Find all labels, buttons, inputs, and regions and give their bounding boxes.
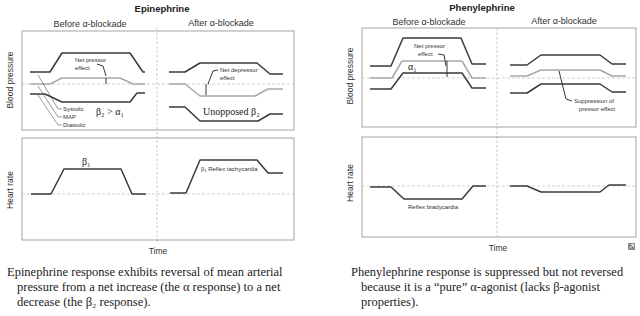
phe-caption-line-2: because it is a “pure” α-agonist (lacks … <box>351 280 640 295</box>
phe-reflex-brady-label: Reflex bradycardia <box>408 204 459 210</box>
epi-legend-map: MAP <box>63 114 76 120</box>
phe-suppression-text-1: Suppression of <box>574 98 614 104</box>
phe-after-systolic-line <box>510 55 626 65</box>
phenylephrine-panel: Phenylephrine Before α-blockade After α-… <box>345 2 636 253</box>
phe-before-label: Before α-blockade <box>392 17 465 27</box>
epi-net-pressor-text-2: effect <box>75 65 90 71</box>
phe-time-label: Time <box>489 243 508 253</box>
phe-suppression-arrow <box>559 71 572 101</box>
phe-bp-frame <box>362 28 636 127</box>
phe-hr-axis-label: Heart rate <box>345 164 355 202</box>
epi-reflex-tachy-label: β₁ Reflex tachycardia <box>201 166 258 172</box>
epi-before-map-line <box>30 78 145 84</box>
phe-alpha1-label: α₁ <box>408 61 417 72</box>
epi-unopposed-beta2: Unopposed β₂ <box>203 106 260 117</box>
epi-before-label: Before α-blockade <box>53 19 126 29</box>
epi-after-hr-line <box>170 160 283 193</box>
phe-after-map-line <box>510 70 626 76</box>
phe-after-label: After α-blockade <box>531 16 597 26</box>
epi-legend-leader-map <box>38 86 62 117</box>
phe-before-map-line <box>370 61 486 78</box>
phe-net-pressor-text-2: effect <box>418 51 433 57</box>
epi-after-map-line <box>169 84 283 96</box>
epi-net-depressor-arrow <box>208 70 218 84</box>
epi-hr-axis-label: Heart rate <box>5 171 15 209</box>
epi-before-hr-line <box>31 169 146 194</box>
phenylephrine-title: Phenylephrine <box>449 2 514 13</box>
phe-net-pressor-arrow <box>438 54 446 66</box>
epi-after-label: After α-blockade <box>188 18 254 28</box>
epi-legend-systolic: Systolic <box>63 106 84 112</box>
epi-hr-frame <box>22 138 294 240</box>
phe-bp-axis-label: Blood pressure <box>345 47 355 104</box>
phe-net-pressor-text-1: Net pressor <box>414 43 445 49</box>
epi-caption-line-3: decrease (the β₂ response). <box>7 295 317 310</box>
epinephrine-title: Epinephrine <box>135 3 190 14</box>
epi-beta2-gt-alpha1: β₂ > α₁ <box>96 106 124 117</box>
phe-caption-line-1: Phenylephrine response is suppressed but… <box>351 265 640 280</box>
phe-suppression-text-2: pressor effect <box>579 106 616 112</box>
phe-before-hr-line <box>370 186 486 199</box>
epi-caption-line-1: Epinephrine response exhibits reversal o… <box>7 265 317 280</box>
phe-caption-line-3: properties). <box>351 295 640 310</box>
phe-before-diastolic-line <box>370 73 486 89</box>
phe-hr-frame <box>362 137 636 237</box>
epi-net-pressor-arrow <box>97 64 106 76</box>
epinephrine-panel: Epinephrine Before α-blockade After α-bl… <box>5 3 294 256</box>
epi-legend-diastolic: Diastolic <box>63 122 86 128</box>
expand-icon[interactable] <box>628 243 635 250</box>
epi-bp-axis-label: Blood pressure <box>5 51 15 108</box>
epi-net-depressor-text-1: Net depressor <box>220 67 258 73</box>
phenylephrine-caption: Phenylephrine response is suppressed but… <box>351 265 640 310</box>
phe-after-diastolic-line <box>510 84 626 93</box>
epi-net-pressor-text-1: Net pressor <box>75 57 106 63</box>
epi-beta1-label: β₁ <box>82 156 91 167</box>
epi-time-label: Time <box>149 246 168 256</box>
epinephrine-caption: Epinephrine response exhibits reversal o… <box>7 265 317 310</box>
epi-net-depressor-text-2: effect <box>220 75 235 81</box>
epi-caption-line-2: pressure from a net increase (the α resp… <box>7 280 317 295</box>
